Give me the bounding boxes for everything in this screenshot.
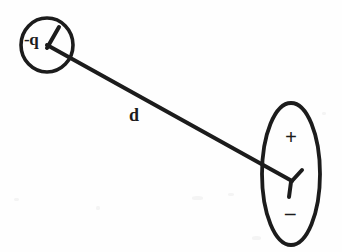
- separation-line-group: [47, 45, 292, 181]
- dipole-negative-label: –: [285, 203, 296, 224]
- distance-label: d: [129, 106, 139, 124]
- dipole-tick: [289, 170, 302, 197]
- figure-canvas: -q d + –: [0, 0, 342, 252]
- separation-line: [47, 45, 292, 181]
- point-charge-tick: [47, 27, 59, 48]
- negative-charge-label: -q: [24, 31, 38, 48]
- dipole-positive-label: +: [285, 127, 297, 148]
